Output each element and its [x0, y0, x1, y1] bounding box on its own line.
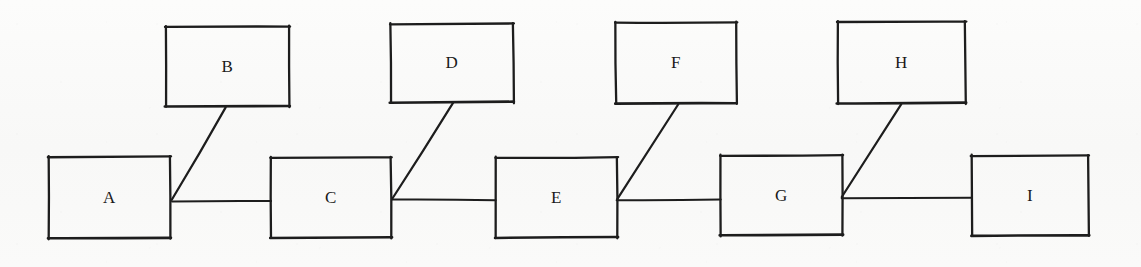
edge-b-a[interactable]: [172, 107, 226, 199]
node-f[interactable]: [616, 23, 736, 103]
node-a[interactable]: [49, 157, 170, 238]
edge-e-g[interactable]: [617, 200, 721, 201]
edge-c-e[interactable]: [392, 200, 496, 201]
node-d[interactable]: [391, 24, 513, 102]
edge-d-c[interactable]: [392, 103, 453, 199]
node-i[interactable]: [972, 156, 1088, 235]
edge-f-e[interactable]: [617, 104, 678, 199]
node-b[interactable]: [166, 27, 289, 106]
node-h[interactable]: [838, 22, 965, 103]
diagram-canvas: ABCDEFGHI: [0, 0, 1141, 267]
edge-h-g[interactable]: [842, 104, 902, 197]
node-g[interactable]: [721, 156, 842, 235]
node-c[interactable]: [271, 158, 391, 237]
node-e[interactable]: [496, 158, 617, 237]
